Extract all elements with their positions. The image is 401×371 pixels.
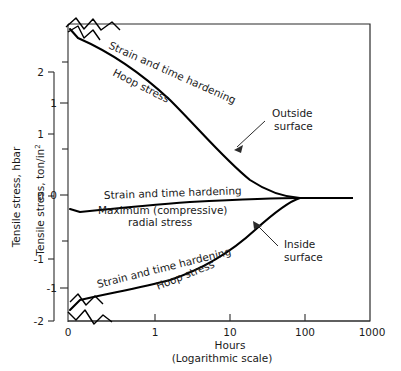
mid-curve-label-line2: Maximum (compressive) — [98, 204, 227, 216]
mid-curve-label-line3: radial stress — [128, 216, 192, 228]
primary-y-ticklabel-2: 2 — [37, 66, 44, 78]
secondary-y-ticklabel-1: 1 — [50, 97, 57, 109]
primary-y-ticklabel-1: 1 — [37, 128, 44, 140]
annot-inside-line2: surface — [284, 251, 323, 263]
secondary-y-ticklabel-m1: -1 — [47, 282, 57, 294]
annotation-outside-surface: Outside surface — [234, 107, 313, 153]
x-ticklabel-10: 10 — [223, 326, 236, 338]
mid-curve-label-line1: Strain and time hardening — [104, 184, 242, 201]
chart-figure: 2 1 0 -1 -2 Tensile stress, hbar 1 0 -1 … — [0, 0, 401, 371]
chart-svg: 2 1 0 -1 -2 Tensile stress, hbar 1 0 -1 … — [0, 0, 401, 371]
primary-y-axis-title: Tensile stress, hbar — [10, 146, 22, 248]
axis-break-bottom — [68, 310, 112, 324]
x-ticklabel-1: 1 — [152, 326, 159, 338]
secondary-y-axis-title-base: Tensile stress, ton/in — [34, 149, 46, 257]
annot-outside-line1: Outside — [272, 107, 313, 119]
secondary-y-axis-title-sup: 2 — [34, 144, 42, 148]
annot-inside-line1: Inside — [284, 238, 315, 250]
x-axis-note: (Logarithmic scale) — [172, 352, 273, 364]
x-ticklabel-100: 100 — [295, 326, 315, 338]
inside-surface-leader-line — [256, 224, 278, 246]
outside-surface-leader-line — [237, 121, 265, 147]
secondary-y-axis — [60, 24, 68, 322]
secondary-y-axis-title: Tensile stress, ton/in2 — [34, 144, 46, 256]
x-axis — [68, 314, 370, 321]
x-ticklabel-1000: 1000 — [359, 326, 386, 338]
annot-outside-line2: surface — [274, 120, 313, 132]
annotation-inside-surface: Inside surface — [253, 221, 323, 263]
primary-y-ticklabel-m2: -2 — [34, 315, 44, 327]
x-axis-title: Hours — [215, 339, 246, 351]
secondary-y-ticklabel-0: 0 — [50, 189, 57, 201]
x-ticklabel-0: 0 — [65, 326, 72, 338]
